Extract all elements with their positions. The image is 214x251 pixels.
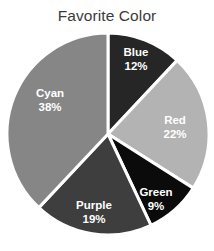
slice-percent-cyan: 38%: [38, 101, 61, 113]
slice-label-blue: Blue: [124, 46, 149, 58]
slice-percent-purple: 19%: [82, 213, 105, 225]
slice-percent-green: 9%: [148, 200, 165, 212]
pie-chart-figure: Favorite Color Blue12%Red22%Green9%Purpl…: [0, 0, 214, 251]
slice-percent-red: 22%: [163, 128, 186, 140]
slice-label-purple: Purple: [76, 199, 112, 211]
slice-label-cyan: Cyan: [36, 87, 64, 99]
pie-chart-canvas: Blue12%Red22%Green9%Purple19%Cyan38%: [0, 0, 214, 251]
slice-label-green: Green: [139, 186, 172, 198]
slice-label-red: Red: [164, 114, 186, 126]
slice-percent-blue: 12%: [124, 60, 147, 72]
